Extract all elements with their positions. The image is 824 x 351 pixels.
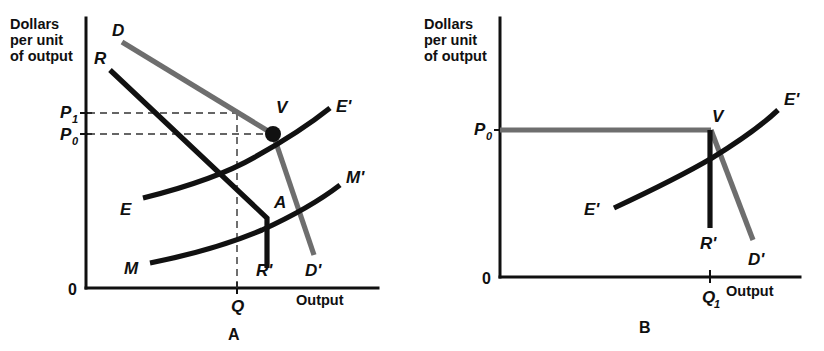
panel-b-y-axis-label-line1: Dollars — [424, 16, 473, 32]
panel-a-label-a-point: A — [273, 193, 286, 212]
panel-b-label-r-prime: R' — [700, 234, 717, 253]
panel-a-panel-label: A — [228, 326, 240, 343]
panel-a-y-axis-label-line1: Dollars — [10, 16, 59, 32]
panel-b-curve-e-eprime — [614, 110, 778, 208]
panel-a-label-m-prime: M' — [346, 168, 365, 187]
panel-b-y-axis-label-line2: per unit — [424, 32, 477, 48]
panel-a-label-m: M — [124, 259, 139, 278]
panel-b-label-d-prime: D' — [748, 250, 765, 269]
panel-b-p0-subscript: 0 — [486, 130, 493, 142]
panel-a-label-e-prime: E' — [336, 97, 352, 116]
panel-a-label-d-prime: D' — [305, 261, 322, 280]
panel-b-label-e-prime-right: E' — [784, 90, 800, 109]
panel-a-q-label: Q — [231, 297, 244, 316]
panel-b-y-axis-label-line3: of output — [424, 48, 487, 64]
panel-b-label-v: V — [712, 107, 725, 126]
panel-a: Dollars per unit of output Output 0 P 1 … — [0, 0, 412, 351]
panel-b-label-e-prime-left: E' — [584, 200, 600, 219]
panel-a-vertex-v-dot — [265, 126, 281, 142]
panel-a-p0-subscript: 0 — [72, 135, 79, 147]
panel-b-q1-subscript: 1 — [714, 298, 720, 310]
panel-b-x-axis-label: Output — [726, 283, 774, 299]
panel-a-label-e: E — [120, 200, 132, 219]
panel-b-origin-label: 0 — [482, 270, 491, 287]
panel-a-origin-label: 0 — [68, 281, 77, 298]
panel-a-y-axis-label-line2: per unit — [10, 32, 63, 48]
panel-a-p1-subscript: 1 — [72, 113, 78, 125]
panel-a-label-d: D — [112, 21, 124, 40]
economics-figure: Dollars per unit of output Output 0 P 1 … — [0, 0, 824, 351]
panel-a-curve-d — [122, 42, 273, 134]
panel-a-label-r-prime: R' — [256, 261, 273, 280]
panel-a-p0-label: P — [60, 125, 72, 144]
panel-a-label-v: V — [276, 98, 289, 117]
panel-a-p1-label: P — [60, 103, 72, 122]
panel-a-x-axis-label: Output — [296, 292, 344, 308]
panel-a-label-r: R — [94, 49, 107, 68]
panel-b-p0-label: P — [474, 120, 486, 139]
panel-b-panel-label: B — [639, 319, 651, 336]
panel-a-y-axis-label-line3: of output — [10, 48, 73, 64]
panel-b: Dollars per unit of output Output 0 P 0 … — [412, 0, 824, 351]
